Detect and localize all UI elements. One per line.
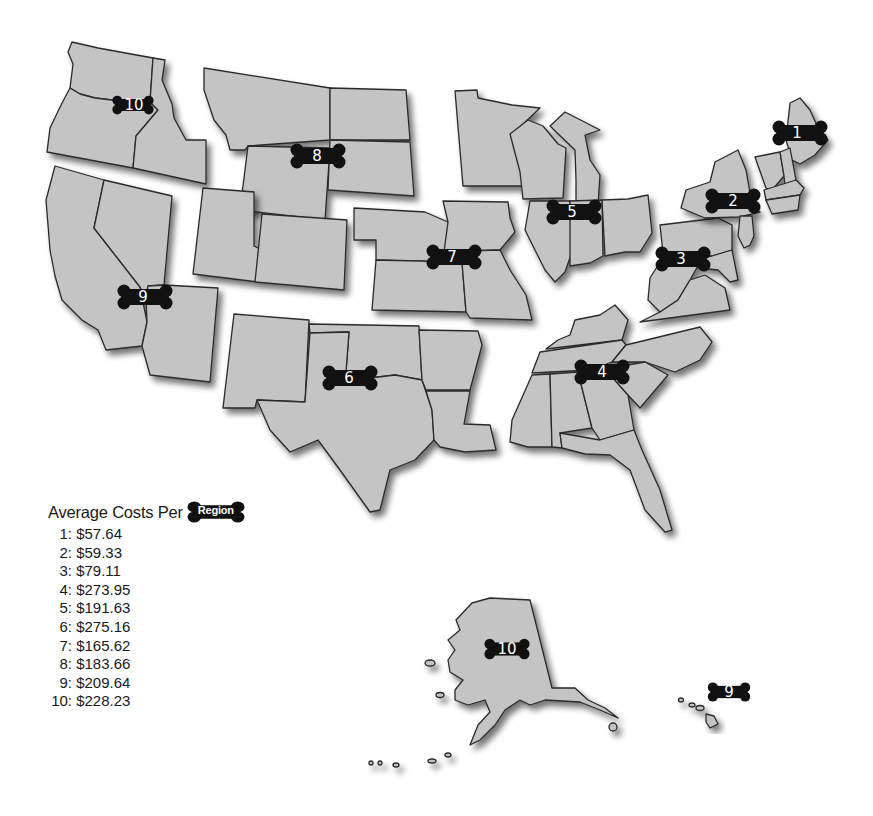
legend-item: 6: $275.16 xyxy=(48,618,245,637)
state-florida xyxy=(560,430,672,532)
alaska-island xyxy=(378,761,382,765)
state-kansas xyxy=(372,260,466,312)
badge-region-3: 3 xyxy=(656,247,711,272)
badge-region-1: 1 xyxy=(773,121,828,146)
legend-item: 2: $59.33 xyxy=(48,544,245,563)
region-9-southwest xyxy=(46,166,218,382)
region-6-south-central xyxy=(223,314,496,512)
svg-text:10: 10 xyxy=(124,96,143,114)
svg-text:6: 6 xyxy=(344,369,354,387)
badge-hawaii-9: 9 xyxy=(708,682,750,701)
svg-text:3: 3 xyxy=(676,250,686,268)
region-1-new-england xyxy=(755,98,828,214)
svg-text:1: 1 xyxy=(792,124,802,142)
state-north-dakota xyxy=(330,88,410,140)
badge-region-7: 7 xyxy=(427,245,482,270)
legend-item: 10: $228.23 xyxy=(48,692,245,711)
legend-title: Average Costs Per Region xyxy=(48,501,245,523)
badge-region-5: 5 xyxy=(547,200,602,225)
state-arkansas xyxy=(419,330,482,390)
badge-region-4: 4 xyxy=(575,360,630,385)
state-vermont xyxy=(755,152,784,190)
state-louisiana xyxy=(426,391,496,452)
legend-item: 1: $57.64 xyxy=(48,525,245,544)
svg-text:8: 8 xyxy=(312,147,322,165)
state-ohio xyxy=(602,195,652,256)
state-new-jersey xyxy=(738,216,754,248)
region-badge-label: Region xyxy=(187,504,245,516)
region-badge-icon: Region xyxy=(187,501,245,523)
state-mississippi xyxy=(510,374,552,447)
legend-title-text: Average Costs Per xyxy=(48,503,183,522)
legend-item: 8: $183.66 xyxy=(48,655,245,674)
legend-item: 7: $165.62 xyxy=(48,637,245,656)
svg-text:5: 5 xyxy=(567,203,577,221)
legend-list: 1: $57.64 2: $59.33 3: $79.11 4: $273.95… xyxy=(48,525,245,711)
alaska xyxy=(369,598,618,767)
svg-text:4: 4 xyxy=(597,363,607,381)
legend-item: 9: $209.64 xyxy=(48,674,245,693)
badge-region-6: 6 xyxy=(323,366,378,391)
hawaii-big-island xyxy=(706,714,718,728)
svg-text:10: 10 xyxy=(497,640,516,658)
legend-item: 3: $79.11 xyxy=(48,562,245,581)
alaska-island xyxy=(428,759,436,763)
state-colorado xyxy=(255,214,347,290)
legend-item: 5: $191.63 xyxy=(48,599,245,618)
alaska-island xyxy=(609,723,617,731)
legend-item: 4: $273.95 xyxy=(48,581,245,600)
state-iowa xyxy=(443,201,515,252)
badge-region-9: 9 xyxy=(118,285,173,310)
svg-text:7: 7 xyxy=(447,248,457,266)
alaska-island xyxy=(393,763,399,767)
state-utah xyxy=(193,188,262,282)
badge-region-10: 10 xyxy=(112,96,153,115)
state-montana xyxy=(204,68,330,150)
hawaii-island xyxy=(689,703,695,707)
alaska-island xyxy=(425,660,435,666)
svg-text:9: 9 xyxy=(138,288,148,306)
region-3-mid-atlantic xyxy=(640,218,738,322)
alaska-island xyxy=(436,693,444,698)
badge-region-8: 8 xyxy=(291,144,346,169)
hawaii xyxy=(679,698,719,728)
alaska-island xyxy=(445,753,451,757)
state-new-mexico xyxy=(223,314,309,408)
badge-region-2: 2 xyxy=(706,189,761,214)
hawaii-island xyxy=(696,706,704,711)
alaska-island xyxy=(369,761,373,765)
region-4-southeast xyxy=(510,305,712,532)
hawaii-island xyxy=(679,698,684,702)
svg-text:9: 9 xyxy=(724,683,734,701)
badge-alaska-10: 10 xyxy=(484,639,529,660)
state-alaska xyxy=(448,598,618,745)
svg-text:2: 2 xyxy=(728,192,738,210)
cost-legend: Average Costs Per Region 1: $57.64 2: $5… xyxy=(48,501,245,711)
